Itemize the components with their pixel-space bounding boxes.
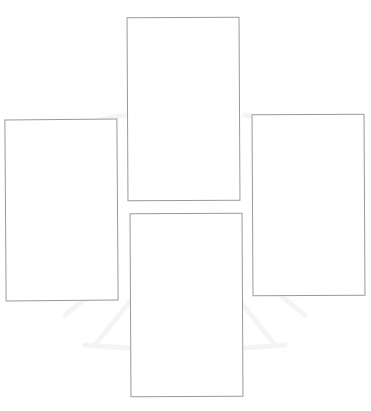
card-right: [252, 114, 366, 297]
card-bottom: [130, 213, 244, 398]
card-top: [127, 17, 241, 202]
card-left: [4, 119, 118, 302]
